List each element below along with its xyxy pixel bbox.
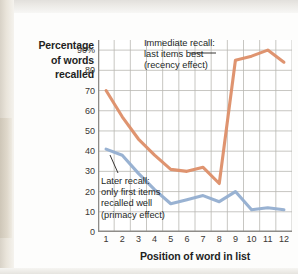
x-tick-label: 2 (120, 234, 125, 244)
x-tick-label: 8 (217, 234, 222, 244)
y-tick-label: 20 (69, 187, 95, 197)
annotation-primacy-line-4: (primacy effect) (101, 210, 165, 221)
x-tick-label: 5 (168, 234, 173, 244)
y-tick-label: 30 (69, 166, 95, 176)
y-tick-label: 0 (69, 227, 95, 237)
y-axis-ticks: 0102030405060708090% (67, 0, 95, 274)
serial-position-curve-chart: Percentage of words recalled 01020304050… (0, 0, 298, 274)
y-tick-label: 40 (69, 146, 95, 156)
x-tick-label: 1 (104, 234, 109, 244)
annotation-primacy-line-2: only first items (101, 187, 165, 198)
x-tick-label: 4 (152, 234, 157, 244)
annotation-recency: Immediate recall: last items best (recen… (144, 38, 215, 72)
annotation-primacy-line-1: Later recall: (101, 176, 165, 187)
y-tick-label: 80 (69, 65, 95, 75)
x-tick-label: 12 (279, 234, 289, 244)
y-tick-label: 50 (69, 126, 95, 136)
x-tick-label: 3 (136, 234, 141, 244)
y-tick-label: 10 (69, 207, 95, 217)
x-tick-label: 11 (263, 234, 272, 244)
x-tick-label: 10 (247, 234, 257, 244)
y-tick-label: 70 (69, 86, 95, 96)
annotation-recency-line-2: last items best (144, 49, 215, 60)
x-tick-label: 7 (201, 234, 206, 244)
annotation-primacy: Later recall: only first items recalled … (101, 176, 165, 221)
annotation-recency-line-1: Immediate recall: (144, 38, 215, 49)
x-tick-label: 6 (184, 234, 189, 244)
x-axis-ticks: 123456789101112 (98, 234, 292, 248)
y-tick-label: 90% (69, 45, 95, 55)
x-tick-label: 9 (233, 234, 238, 244)
annotation-primacy-line-3: recalled well (101, 198, 165, 209)
annotation-recency-line-3: (recency effect) (144, 60, 215, 71)
x-axis-title: Position of word in list (98, 250, 292, 262)
y-tick-label: 60 (69, 106, 95, 116)
